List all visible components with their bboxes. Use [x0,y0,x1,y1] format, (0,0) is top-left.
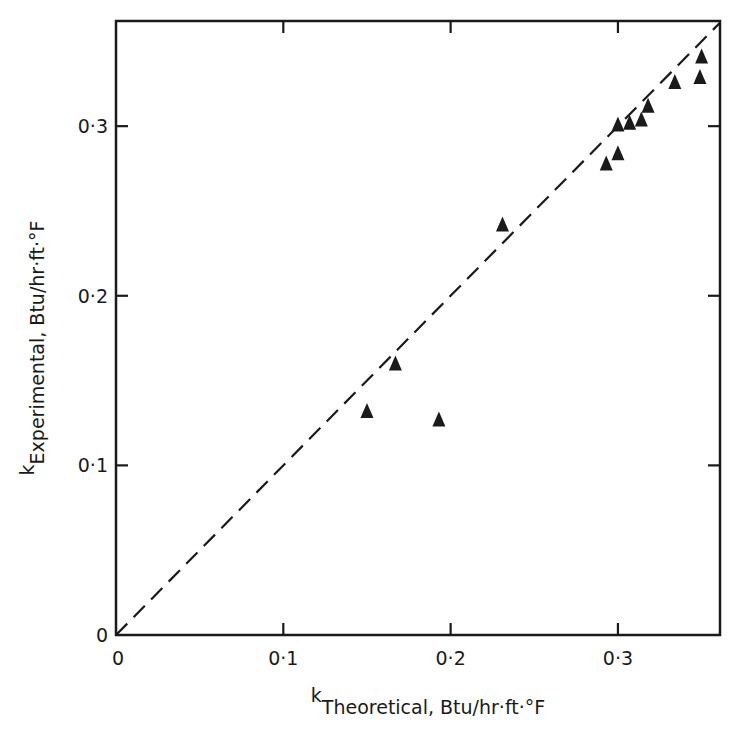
triangle-marker [611,145,624,160]
scatter-chart: 00·10·20·300·10·20·3 kTheoretical, Btu/h… [0,0,739,744]
x-axis-label: kTheoretical, Btu/hr·ft·°F [311,684,545,718]
triangle-marker [496,217,509,232]
x-tick-label: 0·3 [603,647,633,669]
triangle-marker [611,116,624,131]
axis-tick-labels: 00·10·20·300·10·20·3 [78,115,633,669]
triangle-marker [635,111,648,126]
y-tick-label: 0·2 [78,285,108,307]
x-tick-label: 0 [112,647,124,669]
y-axis-symbol: k [16,464,38,475]
x-axis-title: kTheoretical, Btu/hr·ft·°F [311,684,545,718]
y-tick-label: 0 [96,624,108,646]
dashed-diagonal-line [116,23,720,635]
triangle-marker [695,49,708,64]
x-axis-subscript: Theoretical, Btu/hr·ft·°F [321,696,545,718]
triangle-marker [432,412,445,427]
reference-line-y-equals-x [116,23,720,635]
y-tick-label: 0·1 [78,454,108,476]
x-tick-label: 0·2 [436,647,466,669]
y-axis-label: kExperimental, Btu/hr·ft·°F [16,221,48,476]
triangle-marker [693,69,706,84]
data-points [360,49,708,427]
y-axis-title: kExperimental, Btu/hr·ft·°F [16,221,48,476]
x-tick-label: 0·1 [268,647,298,669]
x-axis-symbol: k [311,684,322,706]
triangle-marker [668,74,681,89]
y-axis-subscript: Experimental, Btu/hr·ft·°F [26,221,48,465]
triangle-marker [623,115,636,130]
triangle-marker [360,403,373,418]
y-tick-label: 0·3 [78,115,108,137]
triangle-marker [600,155,613,170]
